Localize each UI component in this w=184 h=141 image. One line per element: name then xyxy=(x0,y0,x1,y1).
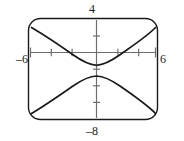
y-min-label: –8 xyxy=(0,125,184,137)
x-max-label: 6 xyxy=(160,53,182,65)
y-max-label: 4 xyxy=(0,3,184,15)
x-min-label: –6 xyxy=(2,53,28,65)
graphing-calculator-window: 4 –8 –6 6 xyxy=(0,0,184,141)
graph-canvas xyxy=(0,0,184,141)
